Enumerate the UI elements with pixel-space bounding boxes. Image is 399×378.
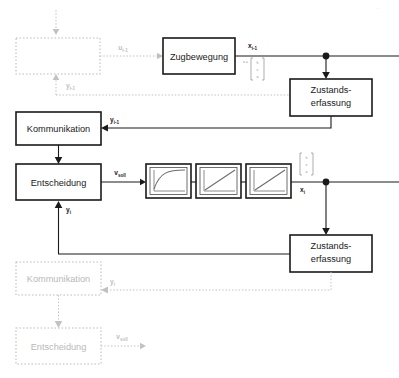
state-vector-bottom-el-2: a bbox=[306, 170, 308, 174]
y-prev-feedback-path: yi-1 bbox=[101, 116, 331, 131]
ghost-top-inflow-arrowhead bbox=[53, 29, 60, 35]
ghost-kommunikation-label: Kommunikation bbox=[27, 274, 90, 284]
ghost-y-i-line bbox=[106, 272, 331, 290]
signal-label-v-soll-ghost: vsoll bbox=[116, 333, 128, 342]
y-i-feedback-arrowhead bbox=[55, 201, 63, 208]
ghost-kom-ent-arrowhead bbox=[55, 321, 63, 328]
x-prev-down-arrowhead bbox=[322, 72, 330, 79]
signal-label-u-prev: ui-1 bbox=[118, 44, 128, 53]
curve-block-linear-ramp-2 bbox=[246, 164, 291, 198]
signal-label-y-i: yi bbox=[66, 206, 71, 215]
ghost-y-i-arrowhead bbox=[101, 287, 108, 294]
ghost-top-group: ui-1 yi-1 bbox=[16, 10, 300, 95]
state-vector-top-el-1: v bbox=[257, 68, 259, 72]
entscheidung-label: Entscheidung bbox=[31, 178, 87, 188]
x-prev-signal-path: xi-1 bbox=[235, 42, 399, 79]
signal-label-v-soll: vsoll bbox=[114, 169, 126, 178]
ghost-entscheidung-label: Entscheidung bbox=[31, 342, 87, 352]
curve-block-linear-ramp-1 bbox=[196, 164, 241, 198]
block-entscheidung: Entscheidung bbox=[16, 164, 101, 200]
block-kommunikation: Kommunikation bbox=[16, 112, 101, 145]
corner-mark: ·· bbox=[376, 5, 380, 11]
state-vector-bottom-bracket-right bbox=[311, 153, 313, 175]
ghost-y-prev-arrowhead bbox=[53, 74, 60, 80]
ghost-to-zugbewegung-arrowhead bbox=[157, 53, 163, 59]
curve-block-saturating-rise bbox=[146, 164, 191, 198]
y-i-feedback-path: yi bbox=[55, 201, 290, 254]
zustandserfassung-bottom-label-1: Zustands- bbox=[311, 241, 352, 251]
state-vector-bottom-el-0: h bbox=[306, 156, 308, 160]
state-vector-top-lhs: x = bbox=[243, 60, 248, 64]
state-vector-top-el-2: a bbox=[257, 75, 259, 79]
ghost-block-top bbox=[16, 38, 100, 74]
v-soll-signal-path: vsoll bbox=[101, 169, 146, 185]
ghost-v-soll-arrowhead bbox=[140, 343, 146, 349]
v-soll-arrowhead bbox=[140, 179, 146, 185]
x-i-signal-path: xi bbox=[291, 179, 399, 235]
kom-ent-arrowhead bbox=[55, 157, 63, 164]
signal-label-x-prev: xi-1 bbox=[248, 42, 257, 51]
state-vector-bottom-bracket-left bbox=[300, 153, 302, 175]
block-diagram: ui-1 yi-1 Zugbewegung xi-1 x = h v a bbox=[0, 0, 399, 378]
state-vector-top-bracket-left bbox=[251, 58, 253, 80]
state-vector-bottom-el-1: v bbox=[306, 163, 308, 167]
ghost-bottom-group: yi Kommunikation Entscheidung vsoll bbox=[16, 262, 331, 364]
signal-label-y-i-ghost: yi bbox=[110, 278, 115, 287]
zustandserfassung-top-label-1: Zustands- bbox=[311, 85, 352, 95]
zugbewegung-label: Zugbewegung bbox=[170, 52, 228, 62]
state-vector-bottom: h v a bbox=[300, 153, 313, 175]
block-zustandserfassung-bottom: Zustands- erfassung bbox=[290, 235, 372, 272]
y-i-feedback-line bbox=[59, 206, 291, 254]
state-vector-top: x = h v a bbox=[243, 58, 264, 80]
y-prev-feedback-arrowhead bbox=[101, 125, 108, 132]
x-i-down-arrowhead bbox=[322, 228, 330, 235]
signal-label-y-prev-ghost: yi-1 bbox=[66, 82, 75, 91]
signal-label-y-kom: yi-1 bbox=[110, 116, 119, 125]
kommunikation-to-entscheidung bbox=[55, 145, 63, 164]
state-vector-top-el-0: h bbox=[257, 61, 259, 65]
state-vector-top-bracket-right bbox=[262, 58, 264, 80]
zustandserfassung-bottom-label-2: erfassung bbox=[311, 254, 351, 264]
block-zustandserfassung-top: Zustands- erfassung bbox=[290, 79, 372, 116]
y-prev-feedback-line bbox=[106, 116, 331, 128]
kommunikation-label: Kommunikation bbox=[27, 124, 90, 134]
block-zugbewegung: Zugbewegung bbox=[163, 38, 235, 74]
signal-label-x-i: xi bbox=[300, 186, 305, 195]
zustandserfassung-top-label-2: erfassung bbox=[311, 98, 351, 108]
